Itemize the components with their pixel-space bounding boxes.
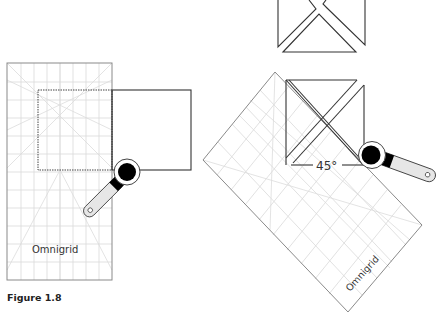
left-ruler: Omnigrid <box>7 63 112 280</box>
right-fabric-square <box>286 80 365 165</box>
right-rotary-cutter <box>359 142 438 184</box>
left-fabric-square <box>38 90 191 170</box>
ruler-brand-right: Omnigrid <box>343 253 381 293</box>
figure-caption: Figure 1.8 <box>7 292 62 303</box>
cut-pieces-result <box>278 0 365 52</box>
right-ruler: Omnigrid <box>203 72 422 312</box>
left-rotary-cutter <box>81 159 140 219</box>
figure-diagram: Omnigrid Figure 1.8 <box>0 0 446 313</box>
ruler-brand-left: Omnigrid <box>32 244 78 255</box>
angle-label: 45° <box>316 159 337 173</box>
